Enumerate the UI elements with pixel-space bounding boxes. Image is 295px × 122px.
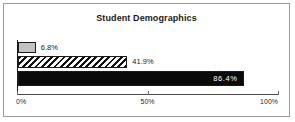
chart-title: Student Demographics — [4, 13, 289, 23]
x-axis-tick-label-2: 100% — [260, 98, 278, 105]
bar-value-label-series-2: 41.9% — [132, 57, 153, 66]
x-axis-tick-0 — [17, 91, 18, 95]
bar-value-label-series-3: 86.4% — [213, 74, 237, 83]
x-axis-tick-label-1: 50% — [140, 98, 154, 105]
bar-series-2 — [18, 56, 127, 68]
x-axis-tick-label-0: 0% — [16, 98, 26, 105]
bar-series-1 — [18, 42, 36, 53]
chart-frame: Student Demographics 0% 50% 100% 6.8% 41… — [3, 3, 290, 117]
bar-series-3 — [18, 71, 244, 86]
x-axis-tick-2 — [278, 91, 279, 95]
plot-area: 0% 50% 100% 6.8% 41.9% 86.4% — [17, 40, 279, 96]
bar-value-label-series-1: 6.8% — [41, 43, 58, 52]
x-axis-tick-1 — [148, 91, 149, 95]
